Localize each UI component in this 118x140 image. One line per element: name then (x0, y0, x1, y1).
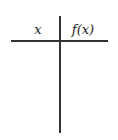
t-chart-table: x f(x) (0, 0, 118, 140)
column-header-fx: f(x) (70, 23, 96, 37)
column-divider-line (59, 16, 61, 133)
column-header-x: x (31, 23, 45, 37)
